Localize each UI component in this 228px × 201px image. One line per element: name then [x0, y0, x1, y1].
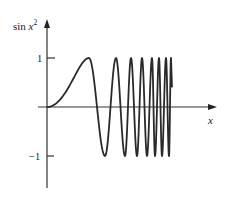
y-axis-label: sin x2	[13, 18, 37, 32]
x-axis-arrow-icon	[208, 104, 217, 110]
y-tick-label-1: 1	[37, 53, 42, 64]
y-axis-arrow-icon	[44, 19, 50, 28]
x-axis-label: x	[207, 114, 213, 126]
y-tick-label-neg1: −1	[29, 151, 40, 162]
sin-x-squared-chart: sin x2 1 −1 x	[0, 0, 228, 201]
